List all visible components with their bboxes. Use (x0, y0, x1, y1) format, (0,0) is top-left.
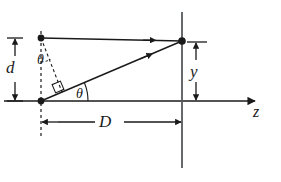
label-fringe-position-y: y (190, 63, 198, 80)
label-z-axis: z (253, 104, 259, 120)
lower-ray-line (41, 41, 182, 101)
label-angle-theta-bottom: θ (76, 87, 83, 101)
upper-slit-point (38, 35, 45, 42)
upper-ray (41, 38, 182, 41)
label-slit-separation-d: d (6, 59, 15, 76)
upper-ray-line (41, 38, 182, 41)
label-screen-distance-D: D (99, 113, 111, 130)
label-angle-theta-top: θ (37, 53, 44, 67)
lower-ray-direction-arrow (140, 55, 150, 59)
lower-slit-point (38, 98, 45, 105)
dashed-path-difference-line (41, 38, 62, 92)
optics-diagram-figure: d D y z θ θ (0, 0, 281, 182)
angle-arc-bottom (85, 83, 89, 101)
diagram-canvas (0, 0, 281, 182)
lower-ray (41, 41, 182, 101)
screen-point (178, 37, 186, 45)
